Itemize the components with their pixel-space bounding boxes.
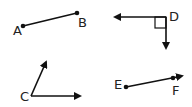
- right-angle-marker: [155, 17, 166, 28]
- geometry-diagram: A B D C E F: [0, 0, 192, 107]
- right-angle-d: D: [115, 9, 179, 48]
- segment-ab-line: [23, 13, 77, 26]
- label-e: E: [114, 77, 122, 92]
- angle-c: C: [20, 62, 80, 104]
- segment-ab: A B: [13, 11, 87, 38]
- ray-ef: E F: [114, 76, 182, 98]
- label-d: D: [169, 9, 179, 24]
- label-c: C: [20, 89, 29, 104]
- label-f: F: [172, 83, 179, 98]
- point-e: [124, 85, 129, 90]
- label-a: A: [13, 23, 22, 38]
- label-b: B: [78, 15, 87, 30]
- point-f: [171, 76, 176, 81]
- ray-c-up: [31, 62, 46, 96]
